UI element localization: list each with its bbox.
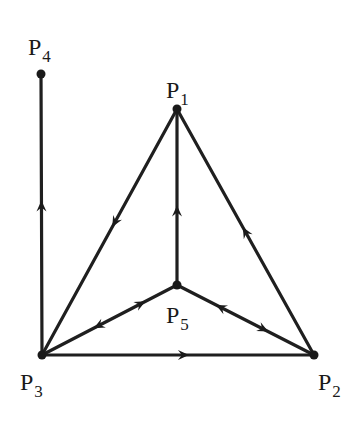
edge-p1-p3 [42,109,177,355]
node-label-p4: P4 [28,34,51,66]
labels-group: P1P2P3P4P5 [20,34,341,401]
node-label-p1: P1 [166,77,189,109]
node-label-p3: P3 [20,369,43,401]
node-p2 [310,351,319,360]
node-p3 [38,351,47,360]
node-label-p2: P2 [318,369,341,401]
node-label-p5: P5 [166,302,189,334]
edge-p3-p4 [41,74,42,355]
node-p4 [37,70,46,79]
arrows-group [36,201,268,360]
node-p5 [173,281,182,290]
graph-diagram: P1P2P3P4P5 [0,0,349,425]
